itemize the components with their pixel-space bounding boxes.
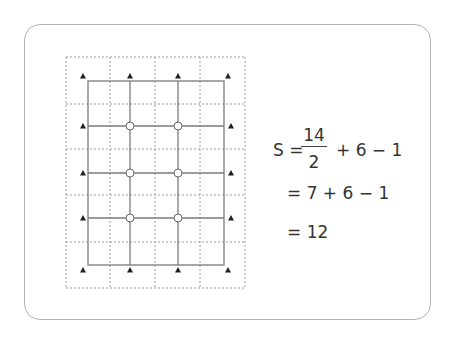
boundary-point-triangle-icon [228, 215, 234, 221]
boundary-point-triangle-icon [127, 73, 133, 79]
boundary-point-triangle-icon [228, 170, 234, 176]
fraction-denominator: 2 [301, 152, 327, 172]
boundary-point-triangle-icon [175, 267, 181, 273]
boundary-point-triangle-icon [80, 170, 86, 176]
formula-line2: = 7 + 6 − 1 [287, 185, 389, 202]
fraction-numerator: 14 [301, 125, 327, 145]
boundary-point-triangle-icon [228, 123, 234, 129]
boundary-point-triangle-icon [225, 73, 231, 79]
fraction-bar [301, 146, 327, 147]
boundary-point-triangle-icon [175, 73, 181, 79]
boundary-point-triangle-icon [225, 267, 231, 273]
boundary-point-triangle-icon [80, 123, 86, 129]
interior-point-circle-icon [126, 122, 134, 130]
boundary-point-triangle-icon [80, 215, 86, 221]
interior-point-circle-icon [126, 169, 134, 177]
formula-line1-rest: + 6 − 1 [336, 142, 402, 159]
formula-lhs: S = [273, 142, 303, 159]
interior-point-circle-icon [174, 122, 182, 130]
boundary-point-triangle-icon [80, 73, 86, 79]
boundary-point-triangle-icon [127, 267, 133, 273]
formula-line3: = 12 [287, 224, 328, 241]
lattice-polygon-diagram [0, 0, 452, 345]
boundary-point-triangle-icon [80, 267, 86, 273]
interior-point-circle-icon [174, 214, 182, 222]
interior-point-circle-icon [174, 169, 182, 177]
interior-point-circle-icon [126, 214, 134, 222]
